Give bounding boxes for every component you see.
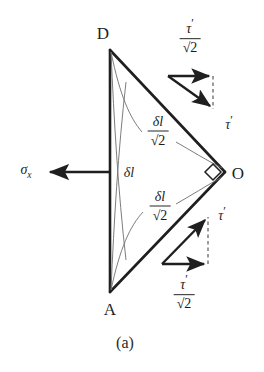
figure-caption: (a) xyxy=(116,334,134,352)
radicand: 2 xyxy=(158,133,165,148)
fraction-numerator: δl xyxy=(148,115,169,130)
fraction-bar xyxy=(148,131,169,132)
sigma-symbol: σ xyxy=(20,162,27,177)
label-tau-prime-lower: τ′ xyxy=(218,205,226,224)
leader-line-d-1 xyxy=(111,52,142,132)
shear-triangle-upper xyxy=(168,76,213,109)
sigma-subscript: x xyxy=(27,170,31,180)
leader-line-a-1 xyxy=(111,212,143,290)
label-tau-prime-over-root2-upper: τ′ √2 xyxy=(180,17,201,55)
fraction-bar xyxy=(150,206,171,207)
prime-mark: ′ xyxy=(223,204,226,218)
edge-d-o xyxy=(110,50,225,172)
fraction-denominator: √2 xyxy=(174,296,195,311)
figure-container: D A O σx δl δl √2 δl √2 τ′ √2 τ′ τ′ τ′ √… xyxy=(0,0,264,372)
edge-label-delta-l-over-root2-upper: δl √2 xyxy=(148,115,169,148)
radicand: 2 xyxy=(184,296,191,311)
prime-mark: ′ xyxy=(191,16,194,30)
fraction-denominator: √2 xyxy=(148,133,169,148)
fraction-numerator: τ′ xyxy=(174,273,195,293)
shear-lower-diagonal-arrow xyxy=(162,220,205,264)
shear-upper-diagonal-arrow xyxy=(168,76,210,106)
fraction-numerator: δl xyxy=(150,190,171,205)
label-tau-prime-upper: τ′ xyxy=(225,114,233,133)
diagram-canvas xyxy=(0,0,264,372)
label-tau-prime-over-root2-lower: τ′ √2 xyxy=(174,273,195,311)
shear-triangle-lower xyxy=(162,217,208,264)
radical-sign: √ xyxy=(177,296,185,311)
edge-label-delta-l: δl xyxy=(124,166,134,180)
vertex-label-d: D xyxy=(97,25,109,42)
edge-label-delta-l-over-root2-lower: δl √2 xyxy=(150,190,171,223)
radical-sign: √ xyxy=(151,133,159,148)
prime-mark: ′ xyxy=(185,272,188,286)
fraction-denominator: √2 xyxy=(150,208,171,223)
fraction-denominator: √2 xyxy=(180,40,201,55)
radical-sign: √ xyxy=(183,40,191,55)
radicand: 2 xyxy=(160,208,167,223)
radicand: 2 xyxy=(190,40,197,55)
fraction-bar xyxy=(174,294,195,295)
prime-mark: ′ xyxy=(230,113,233,127)
fraction-numerator: τ′ xyxy=(180,17,201,37)
vertex-label-a: A xyxy=(104,301,116,318)
vertex-label-o: O xyxy=(232,165,244,182)
sigma-x-label: σx xyxy=(20,163,31,180)
fraction-bar xyxy=(180,38,201,39)
radical-sign: √ xyxy=(153,208,161,223)
